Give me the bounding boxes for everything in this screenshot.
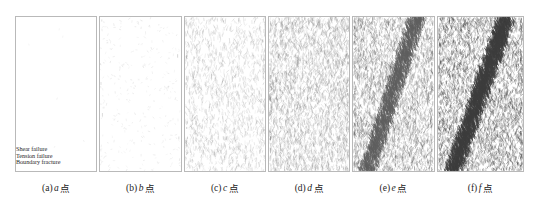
caption-symbol-d: d <box>306 183 314 193</box>
caption-symbol-c: c <box>221 183 228 193</box>
caption-c: (c)c点 <box>184 176 266 200</box>
caption-suffix-d: 点 <box>314 181 324 195</box>
caption-e: (e)e点 <box>352 176 434 200</box>
panel-c-crack-canvas <box>185 17 265 171</box>
caption-index-d: (d) <box>295 183 306 193</box>
legend: Shear failure Tension failure Boundary f… <box>16 146 86 166</box>
panel-e-crack-canvas <box>353 17 433 171</box>
caption-index-e: (e) <box>380 183 391 193</box>
caption-b: (b)b点 <box>99 176 181 200</box>
panel-e <box>352 16 434 172</box>
panel-c <box>184 16 266 172</box>
caption-symbol-e: e <box>390 183 397 193</box>
panel-row <box>15 16 524 172</box>
caption-suffix-f: 点 <box>483 181 493 195</box>
caption-d: (d)d点 <box>268 176 350 200</box>
panel-f-crack-canvas <box>438 17 523 171</box>
caption-suffix-c: 点 <box>229 181 239 195</box>
panel-b-crack-canvas <box>100 17 180 171</box>
caption-suffix-b: 点 <box>145 181 155 195</box>
caption-row: (a)a点(b)b点(c)c点(d)d点(e)e点(f)f点 <box>15 176 524 200</box>
caption-symbol-b: b <box>137 183 145 193</box>
caption-f: (f)f点 <box>437 176 524 200</box>
panel-b <box>99 16 181 172</box>
panel-f <box>437 16 524 172</box>
caption-index-f: (f) <box>468 183 478 193</box>
caption-index-a: (a) <box>42 183 53 193</box>
caption-index-c: (c) <box>211 183 222 193</box>
caption-suffix-e: 点 <box>397 181 407 195</box>
caption-suffix-a: 点 <box>60 181 70 195</box>
legend-item-boundary-fracture: Boundary fracture <box>16 159 86 166</box>
panel-d-crack-canvas <box>269 17 349 171</box>
caption-a: (a)a点 <box>15 176 97 200</box>
panel-d <box>268 16 350 172</box>
crack-evolution-figure: Shear failure Tension failure Boundary f… <box>0 0 534 203</box>
caption-index-b: (b) <box>126 183 137 193</box>
caption-symbol-a: a <box>53 183 61 193</box>
